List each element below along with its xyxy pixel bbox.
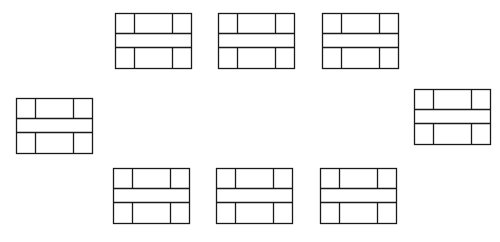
grid-box-diagram bbox=[0, 0, 500, 242]
box-outline bbox=[415, 90, 491, 145]
box-top-1 bbox=[116, 14, 192, 69]
box-bottom-2 bbox=[217, 169, 293, 224]
box-top-2 bbox=[219, 14, 295, 69]
box-outline bbox=[321, 169, 397, 224]
box-outline bbox=[219, 14, 295, 69]
box-outline bbox=[217, 169, 293, 224]
box-left bbox=[17, 99, 93, 154]
diagram-canvas bbox=[0, 0, 500, 242]
box-bottom-3 bbox=[321, 169, 397, 224]
box-outline bbox=[17, 99, 93, 154]
box-outline bbox=[116, 14, 192, 69]
box-top-3 bbox=[323, 14, 399, 69]
box-outline bbox=[114, 169, 190, 224]
box-right bbox=[415, 90, 491, 145]
box-outline bbox=[323, 14, 399, 69]
box-bottom-1 bbox=[114, 169, 190, 224]
